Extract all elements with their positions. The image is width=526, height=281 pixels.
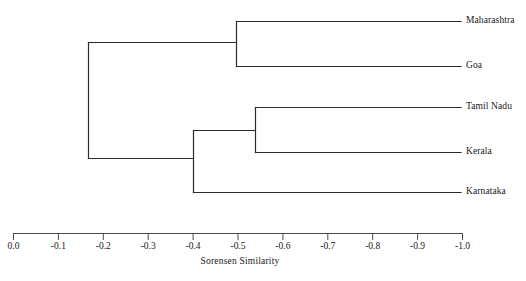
dendrogram-plot [0,0,526,281]
axis-scale [14,234,463,240]
axis-tick-label-6: -0.6 [275,241,290,251]
leaf-label-kerala: Kerala [466,146,492,156]
leaf-label-tamil-nadu: Tamil Nadu [466,101,512,111]
axis-tick-label-5: -0.5 [230,241,245,251]
dendrogram-branches [89,22,462,193]
axis-tick-label-7: -0.7 [320,241,335,251]
leaf-label-karnataka: Karnataka [466,186,506,196]
axis-title: Sorensen Similarity [200,256,279,266]
axis-tick-label-8: -0.8 [365,241,380,251]
dendrogram-figure: Maharashtra Goa Tamil Nadu Kerala Karnat… [0,0,526,281]
leaf-label-goa: Goa [466,60,482,70]
leaf-label-maharashtra: Maharashtra [466,15,515,25]
axis-tick-label-3: -0.3 [141,241,156,251]
axis-tick-label-4: -0.4 [186,241,201,251]
axis-tick-label-10: -1.0 [455,241,470,251]
axis-tick-label-9: -0.9 [410,241,425,251]
axis-tick-label-1: -0.1 [51,241,66,251]
axis-tick-label-2: -0.2 [96,241,111,251]
axis-tick-label-0: 0.0 [8,241,20,251]
